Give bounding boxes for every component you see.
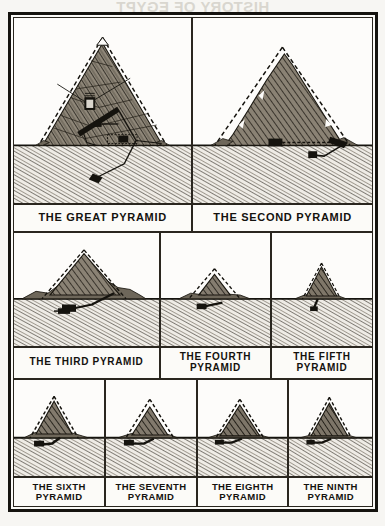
pyramid-mass	[50, 253, 120, 294]
ground-fill	[161, 299, 270, 346]
subterranean-chamber	[307, 439, 315, 444]
ground-fill	[289, 437, 372, 476]
caption-second-pyramid: THE SECOND PYRAMID	[193, 203, 372, 231]
pyramid-row-1: THE GREAT PYRAMID	[14, 18, 372, 231]
caption-fifth-pyramid: THE FIFTH PYRAMID	[272, 346, 372, 378]
subterranean-chamber	[118, 136, 128, 143]
burial-chamber	[269, 139, 283, 147]
ground-fill	[106, 437, 196, 476]
great-pyramid-section-drawing	[14, 18, 191, 203]
panel-second-pyramid[interactable]: THE SECOND PYRAMID	[191, 18, 372, 231]
engraving-plate: THE GREAT PYRAMID	[8, 12, 378, 512]
caption-ninth-pyramid: THE NINTH PYRAMID	[289, 476, 372, 506]
panel-great-pyramid[interactable]: THE GREAT PYRAMID	[14, 18, 191, 231]
panel-sixth-pyramid[interactable]: THE SIXTH PYRAMID	[14, 380, 104, 506]
pyramid-mass	[225, 54, 344, 145]
caption-great-pyramid: THE GREAT PYRAMID	[14, 203, 191, 231]
kings-chamber-void	[86, 100, 93, 108]
subterranean-chamber	[197, 303, 207, 309]
pyramid-row-2: THE THIRD PYRAMID	[14, 231, 372, 378]
scene-sixth-pyramid	[14, 380, 104, 476]
panel-fourth-pyramid[interactable]: THE FOURTH PYRAMID	[159, 233, 270, 378]
subterranean-chamber	[124, 439, 134, 445]
caption-sixth-pyramid: THE SIXTH PYRAMID	[14, 476, 104, 506]
apex-marker	[97, 37, 109, 45]
ground-fill	[272, 299, 372, 346]
second-pyramid-section-drawing	[193, 18, 372, 203]
ground-fill	[198, 437, 288, 476]
caption-third-pyramid: THE THIRD PYRAMID	[14, 346, 159, 378]
scene-ninth-pyramid	[289, 380, 372, 476]
pyramid-mass	[199, 274, 231, 295]
third-pyramid-section-drawing	[14, 233, 159, 346]
panel-eighth-pyramid[interactable]: THE EIGHTH PYRAMID	[196, 380, 288, 506]
scene-seventh-pyramid	[106, 380, 196, 476]
ground-fill	[14, 437, 104, 476]
fourth-pyramid-section-drawing	[161, 233, 270, 346]
eighth-pyramid-section-drawing	[198, 380, 288, 476]
subterranean-chamber	[310, 306, 318, 311]
scene-second-pyramid	[193, 18, 372, 203]
scene-great-pyramid	[14, 18, 191, 203]
seventh-pyramid-section-drawing	[106, 380, 196, 476]
panel-ninth-pyramid[interactable]: THE NINTH PYRAMID	[287, 380, 372, 506]
scene-fifth-pyramid	[272, 233, 372, 346]
ground-fill	[193, 145, 372, 202]
pyramid-mass	[306, 267, 336, 296]
scene-fourth-pyramid	[161, 233, 270, 346]
pyramid-row-3: THE SIXTH PYRAMID	[14, 378, 372, 506]
fifth-pyramid-section-drawing	[272, 233, 372, 346]
caption-fourth-pyramid: THE FOURTH PYRAMID	[161, 346, 270, 378]
scene-eighth-pyramid	[198, 380, 288, 476]
panel-seventh-pyramid[interactable]: THE SEVENTH PYRAMID	[104, 380, 196, 506]
panel-third-pyramid[interactable]: THE THIRD PYRAMID	[14, 233, 159, 378]
caption-eighth-pyramid: THE EIGHTH PYRAMID	[198, 476, 288, 506]
sixth-pyramid-section-drawing	[14, 380, 104, 476]
subterranean-chamber	[34, 440, 44, 446]
panel-fifth-pyramid[interactable]: THE FIFTH PYRAMID	[270, 233, 372, 378]
queens-chamber	[95, 121, 102, 127]
pyramid-mass	[132, 407, 168, 435]
scene-third-pyramid	[14, 233, 159, 346]
ninth-pyramid-section-drawing	[289, 380, 372, 476]
caption-seventh-pyramid: THE SEVENTH PYRAMID	[106, 476, 196, 506]
subterranean-chamber	[215, 439, 224, 444]
plate-inner-frame: THE GREAT PYRAMID	[13, 17, 373, 507]
lower-chamber	[308, 151, 317, 158]
